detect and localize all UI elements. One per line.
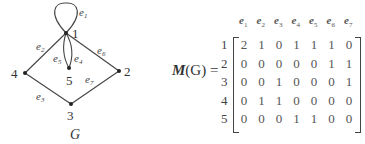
edge-label-e7: e7 (85, 73, 94, 87)
matrix-cell: 0 (291, 74, 303, 90)
matrix-cell: 1 (308, 37, 320, 53)
matrix-cell: 0 (291, 56, 303, 72)
matrix-cell: 1 (308, 111, 320, 127)
node-label-1: 1 (72, 26, 79, 41)
row-label-5: 5 (221, 111, 228, 127)
matrix-cell: 0 (238, 56, 250, 72)
node-label-5: 5 (66, 73, 73, 88)
edge-label-e1: e1 (79, 6, 87, 20)
matrix-cell: 0 (238, 111, 250, 127)
matrix-cell: 0 (326, 111, 338, 127)
matrix-cell: 0 (273, 111, 285, 127)
row-label-2: 2 (221, 56, 228, 72)
matrix-cell: 0 (326, 93, 338, 109)
node-4 (23, 71, 27, 75)
matrix-cell: 1 (291, 111, 303, 127)
matrix-cell: 0 (256, 56, 268, 72)
matrix-cell: 0 (273, 37, 285, 53)
row-label-3: 3 (221, 74, 228, 90)
edge-label-e6: e6 (97, 44, 106, 58)
matrix-cell: 1 (326, 37, 338, 53)
matrix-cell: 0 (343, 111, 355, 127)
node-label-4: 4 (11, 66, 18, 81)
node-5 (67, 66, 71, 70)
matrix-label-rest: (G) = (185, 62, 218, 78)
matrix-cell: 0 (308, 93, 320, 109)
edge-e3 (25, 73, 71, 104)
edge-label-e2: e2 (36, 40, 45, 54)
graph-caption: G (70, 127, 80, 142)
matrix-cell: 1 (273, 74, 285, 90)
matrix-cell: 0 (326, 74, 338, 90)
column-header-e2: e2 (257, 14, 265, 29)
edge-e2 (25, 33, 66, 73)
matrix-cell: 0 (343, 93, 355, 109)
matrix-cell: 0 (343, 37, 355, 53)
column-header-e1: e1 (239, 14, 247, 29)
matrix-cell: 1 (256, 37, 268, 53)
column-header-e4: e4 (292, 14, 300, 29)
matrix-cell: 1 (343, 74, 355, 90)
matrix-cell: 1 (291, 37, 303, 53)
matrix-cell: 0 (308, 56, 320, 72)
column-header-e6: e6 (327, 14, 335, 29)
edge-label-e3: e3 (36, 90, 45, 104)
node-1 (64, 31, 68, 35)
node-label-3: 3 (67, 108, 74, 123)
node-label-2: 2 (124, 64, 131, 79)
matrix-cell: 1 (326, 56, 338, 72)
matrix-cell: 1 (343, 56, 355, 72)
right-bracket (355, 37, 361, 133)
left-bracket (233, 37, 239, 133)
row-label-4: 4 (221, 93, 228, 109)
matrix-cell: 1 (273, 93, 285, 109)
node-3 (69, 102, 73, 106)
edge-label-e4: e4 (74, 52, 83, 66)
matrix-cell: 0 (238, 74, 250, 90)
edge-e7 (71, 71, 119, 104)
graph-g: 1 2 3 4 5 e1 e2 e3 e4 e5 e6 e7 G (0, 0, 170, 144)
column-header-e5: e5 (309, 14, 317, 29)
node-2 (117, 69, 121, 73)
matrix-cell: 0 (256, 111, 268, 127)
matrix-cell: 0 (256, 74, 268, 90)
matrix-cell: 2 (238, 37, 250, 53)
matrix-cell: 0 (273, 56, 285, 72)
matrix-cell: 0 (238, 93, 250, 109)
column-header-e3: e3 (274, 14, 282, 29)
matrix-cell: 1 (256, 93, 268, 109)
matrix-cell: 0 (308, 74, 320, 90)
row-label-1: 1 (221, 37, 228, 53)
matrix-cell: 0 (291, 93, 303, 109)
matrix-label: M(G) = (172, 62, 218, 79)
column-header-e7: e7 (344, 14, 352, 29)
edge-label-e5: e5 (53, 52, 62, 66)
